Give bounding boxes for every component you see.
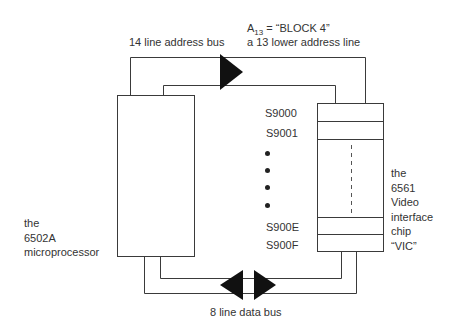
- register-label: S900E: [266, 220, 299, 234]
- vic-label-line: “VIC”: [391, 239, 433, 254]
- data-bus-outer-line: [145, 251, 357, 294]
- register-label: S9000: [265, 106, 297, 120]
- data-bus-arrow-right-icon: [254, 270, 276, 300]
- processor-label-line: the: [24, 216, 99, 231]
- register-label: S900F: [266, 238, 298, 252]
- vic-label-line: the: [391, 166, 433, 181]
- address-annotation-suffix: = “BLOCK 4”: [263, 22, 329, 34]
- data-bus-arrow-left-icon: [220, 270, 243, 300]
- bus-diagram: 14 line address bus A13 = “BLOCK 4” a 13…: [0, 0, 458, 333]
- data-bus-label: 8 line data bus: [210, 305, 282, 319]
- address-bus-inner-line: [164, 86, 336, 104]
- ellipsis-dot-icon: [265, 203, 270, 208]
- register-label: S9001: [266, 126, 298, 140]
- processor-label: the 6502A microprocessor: [24, 216, 99, 260]
- diagram-lines: [0, 0, 458, 333]
- vic-label-line: 6561: [391, 181, 433, 196]
- data-bus-inner-line: [161, 251, 342, 279]
- processor-label-line: microprocessor: [24, 245, 99, 260]
- address-bus-label: 14 line address bus: [129, 35, 224, 49]
- processor-box: [118, 96, 195, 257]
- address-annotation-line2: a 13 lower address line: [247, 35, 360, 49]
- vic-chip-label: the 6561 Video interface chip “VIC”: [391, 166, 433, 254]
- address-bus-arrow-right-icon: [220, 54, 243, 90]
- vic-label-line: chip: [391, 224, 433, 239]
- ellipsis-dot-icon: [265, 168, 270, 173]
- vic-label-line: Video: [391, 195, 433, 210]
- vic-chip-box: [318, 104, 384, 252]
- processor-label-line: 6502A: [24, 231, 99, 246]
- ellipsis-dot-icon: [265, 151, 270, 156]
- vic-label-line: interface: [391, 210, 433, 225]
- address-bus-outer-line: [131, 58, 366, 104]
- ellipsis-dot-icon: [265, 185, 270, 190]
